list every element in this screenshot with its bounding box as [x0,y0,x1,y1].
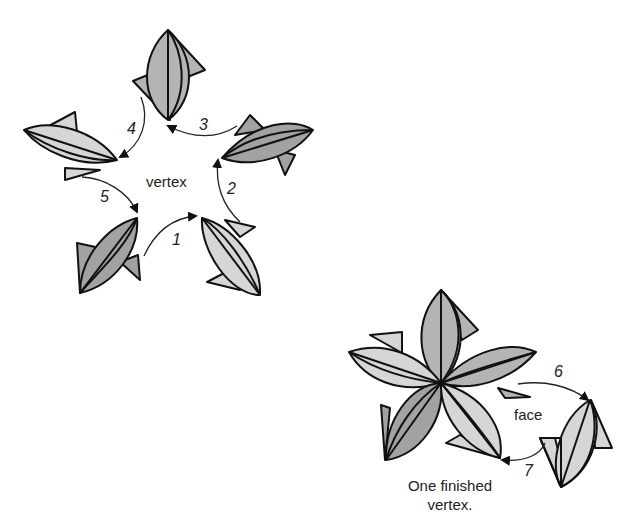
finished-vertex [349,290,536,460]
step-number-6: 6 [554,363,563,381]
arrow-step-7 [502,443,545,460]
caption: One finished vertex. [390,476,510,514]
diagram-canvas [0,0,634,532]
vertex-label: vertex [146,173,187,190]
step-number-7: 7 [524,462,533,480]
caption-line-1: One finished [390,476,510,495]
arrow-step-1 [144,216,196,256]
step-number-3: 3 [199,116,208,134]
unit-upper-left [24,112,117,180]
step-number-5: 5 [100,188,109,206]
unit-lower-right [202,218,260,295]
unit-lower-left [77,218,140,293]
step-number-2: 2 [227,180,236,198]
face-label: face [514,406,542,423]
arrow-step-5 [82,177,137,212]
caption-line-2: vertex. [390,495,510,514]
unit-upper-right [222,115,313,175]
step-number-4: 4 [127,120,136,138]
face-unit [540,400,612,487]
step-number-1: 1 [172,231,181,249]
